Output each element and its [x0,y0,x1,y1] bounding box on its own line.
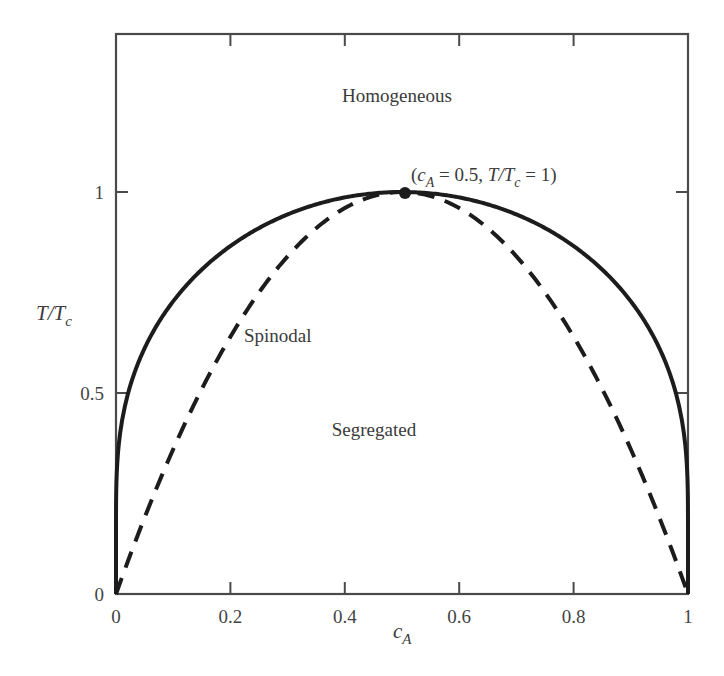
spinodal-label: Spinodal [244,325,312,346]
x-tick-label: 0.8 [562,606,586,627]
plot-border [116,34,688,594]
segregated-label: Segregated [332,419,417,440]
phase-diagram-chart: 00.20.40.60.8100.51 Homogeneous Spinodal… [0,0,724,676]
axis-tick-labels: 00.20.40.60.8100.51 [80,182,693,627]
critical-point-marker [399,187,411,199]
x-tick-label: 0 [111,606,121,627]
x-tick-label: 0.4 [333,606,357,627]
homogeneous-label: Homogeneous [342,85,452,106]
y-tick-label: 1 [95,182,105,203]
plot-frame [116,34,688,594]
x-tick-label: 0.2 [219,606,243,627]
x-axis-label: cA [393,619,412,647]
critical-point-annotation: (cA = 0.5, T/Tc = 1) [411,164,557,190]
y-axis-label: T/Tc [36,301,72,329]
x-tick-label: 0.6 [447,606,471,627]
axis-ticks [116,34,688,594]
y-tick-label: 0.5 [80,383,104,404]
spinodal-curve [116,192,688,594]
y-tick-label: 0 [95,584,105,605]
x-tick-label: 1 [683,606,693,627]
curves [116,192,688,594]
